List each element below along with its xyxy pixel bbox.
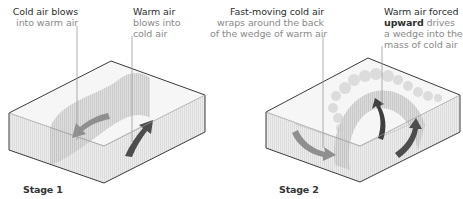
label-cold-air-blows: Cold air blows into warm air — [4, 6, 78, 28]
label-warm-air-blows: Warm air blows into cold air — [133, 6, 180, 39]
label-body-line-2: cold air — [133, 28, 180, 39]
label-body-line-1: a wedge into the — [384, 28, 463, 39]
label-warm-air-forced-upward: Warm air forced upward drives a wedge in… — [384, 6, 463, 50]
label-body: into warm air — [4, 17, 78, 28]
stage-2-title: Stage 2 — [279, 184, 319, 195]
stage-1-title: Stage 1 — [23, 184, 63, 195]
stage-1-block — [9, 61, 205, 183]
label-heading: Warm air — [133, 6, 180, 17]
label-heading: Cold air blows — [4, 6, 78, 17]
label-body-line-1: wraps around the back — [210, 17, 324, 28]
label-heading: Fast-moving cold air — [210, 6, 324, 17]
label-heading-line-2: upward — [384, 17, 424, 28]
label-body-inline: drives — [427, 17, 455, 28]
label-fast-moving-cold-air: Fast-moving cold air wraps around the ba… — [210, 6, 324, 39]
stage-2-block — [266, 58, 460, 182]
label-body-line-1: blows into — [133, 17, 180, 28]
label-heading-line-1: Warm air forced — [384, 6, 463, 17]
label-body-line-2: mass of cold air — [384, 39, 463, 50]
label-body-line-2: of the wedge of warm air — [210, 28, 324, 39]
